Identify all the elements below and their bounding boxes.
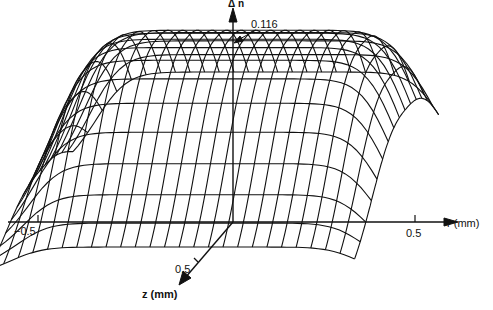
constant-r-curve (179, 30, 263, 247)
constant-r-curve (91, 31, 175, 248)
constant-r-curve (252, 30, 336, 247)
constant-r-curve (4, 126, 88, 264)
z-tick (194, 258, 198, 262)
constant-r-curve (48, 43, 132, 249)
constant-r-curve (106, 30, 190, 247)
dn-axis-label: Δ n (228, 0, 244, 9)
z-axis-line (185, 222, 233, 278)
surface-plot (0, 0, 493, 310)
constant-r-curve (208, 30, 292, 247)
r-axis-label: r (mm) (447, 218, 479, 229)
constant-r-curve (194, 30, 278, 247)
wireframe-mesh (0, 30, 439, 269)
constant-z-curve (17, 103, 383, 207)
peak-value-label: 0.116 (251, 19, 278, 30)
z-tick-label: 0.5 (175, 264, 190, 275)
r-tick-neg-label: −0.5 (14, 226, 36, 237)
z-axis-label: z (mm) (142, 289, 177, 300)
dn-axis-arrow-icon (229, 8, 237, 22)
constant-r-curve (165, 30, 249, 247)
constant-r-curve (150, 30, 234, 247)
constant-r-curve (355, 98, 439, 259)
constant-r-curve (238, 30, 322, 247)
constant-r-curve (282, 31, 366, 247)
constant-r-curve (135, 30, 219, 247)
constant-z-curve (0, 223, 360, 258)
constant-r-curve (223, 30, 307, 247)
constant-r-curve (121, 30, 205, 247)
r-tick-pos-label: 0.5 (406, 228, 421, 239)
